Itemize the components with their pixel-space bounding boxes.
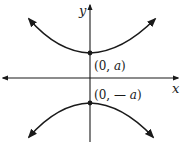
upper-branch <box>29 19 155 53</box>
y-axis-label: y <box>78 3 87 18</box>
x-axis-label: x <box>172 81 180 96</box>
hyperbola-diagram: y x (0, a) (0, — a) <box>0 0 182 143</box>
upper-vertex-label: (0, a) <box>94 59 126 73</box>
lower-vertex-point <box>88 101 93 106</box>
lower-vertex-label: (0, — a) <box>94 88 142 102</box>
lower-branch <box>29 103 153 137</box>
upper-vertex-point <box>88 51 93 56</box>
